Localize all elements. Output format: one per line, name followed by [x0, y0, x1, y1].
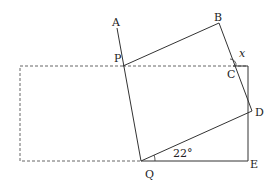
label-Q: Q: [145, 168, 154, 181]
angle-label-22: 22°: [173, 147, 193, 160]
dashed-rectangle-edge: [20, 66, 141, 161]
angle-label-x: x: [239, 47, 246, 60]
geometry-diagram: A B P C D Q E 22° x: [0, 0, 278, 190]
segment-PB: [123, 23, 219, 66]
label-P: P: [114, 52, 122, 65]
label-A: A: [111, 16, 121, 29]
segment-BD: [219, 23, 252, 111]
label-E: E: [250, 158, 258, 171]
label-C: C: [227, 68, 235, 81]
label-B: B: [214, 11, 222, 24]
angle-arc-22: [154, 155, 155, 161]
label-D: D: [255, 106, 264, 119]
segment-DQ: [141, 111, 252, 161]
segment-AQ: [117, 28, 141, 161]
